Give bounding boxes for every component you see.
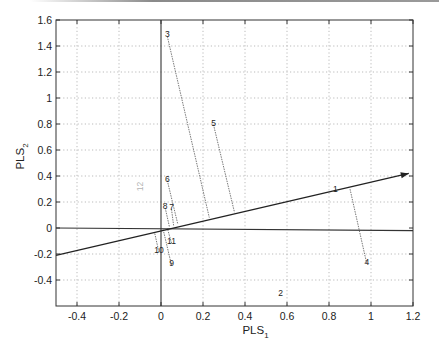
y-tick-label: 0.2 bbox=[37, 196, 52, 208]
y-tick-label: 1.2 bbox=[37, 66, 52, 78]
projection-line-4 bbox=[350, 189, 367, 264]
y-tick-label: -0.4 bbox=[34, 274, 52, 286]
y-tick-labels: -0.4-0.200.20.40.60.811.21.41.6 bbox=[34, 14, 52, 286]
pls-biplot: 123456789101112 -0.4-0.200.20.40.60.811.… bbox=[0, 0, 439, 351]
point-label-5: 5 bbox=[211, 118, 216, 128]
projection-line-5 bbox=[214, 125, 235, 213]
y-tick-label: 1.4 bbox=[37, 40, 52, 52]
point-label-11: 11 bbox=[167, 236, 176, 246]
point-label-6: 6 bbox=[165, 174, 170, 184]
x-axis-title: PLS1 bbox=[242, 324, 269, 340]
x-tick-label: 0.4 bbox=[238, 310, 253, 322]
point-label-10: 10 bbox=[154, 245, 164, 255]
point-label-2: 2 bbox=[278, 288, 283, 298]
point-label-9: 9 bbox=[169, 258, 174, 268]
point-label-1: 1 bbox=[333, 184, 338, 194]
faint-point-label: 12 bbox=[135, 181, 145, 191]
y-axis-title: PLS2 bbox=[14, 143, 30, 170]
point-label-3: 3 bbox=[165, 29, 170, 39]
projection-lines bbox=[155, 36, 367, 265]
y-tick-label: 0.8 bbox=[37, 118, 52, 130]
x-tick-label: 1.2 bbox=[406, 310, 421, 322]
reference-lines bbox=[56, 20, 413, 306]
point-label-4: 4 bbox=[364, 257, 369, 267]
y-tick-label: 0.4 bbox=[37, 170, 52, 182]
x-tick-label: -0.2 bbox=[110, 310, 128, 322]
y-tick-label: 1 bbox=[46, 92, 52, 104]
x-tick-label: 0.8 bbox=[322, 310, 337, 322]
x-tick-label: -0.4 bbox=[68, 310, 86, 322]
point-label-8: 8 bbox=[163, 201, 168, 211]
x-tick-label: 0.2 bbox=[196, 310, 211, 322]
point-label-7: 7 bbox=[169, 202, 174, 212]
plot-frame bbox=[56, 20, 413, 306]
x-tick-label: 0 bbox=[158, 310, 164, 322]
x-tick-label: 0.6 bbox=[280, 310, 295, 322]
y-tick-label: -0.2 bbox=[34, 248, 52, 260]
x-tick-labels: -0.4-0.200.20.40.60.811.2 bbox=[68, 310, 420, 322]
y-tick-label: 1.6 bbox=[37, 14, 52, 26]
point-labels: 123456789101112 bbox=[135, 29, 369, 298]
axis-ticks bbox=[56, 20, 413, 306]
grid-lines bbox=[56, 20, 413, 306]
y-tick-label: 0 bbox=[46, 222, 52, 234]
y-tick-label: 0.6 bbox=[37, 144, 52, 156]
x-tick-label: 1 bbox=[368, 310, 374, 322]
